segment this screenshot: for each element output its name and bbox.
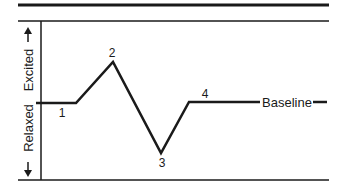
arousal-diagram: Excited Relaxed 1 2 3 4 Baseline [0, 0, 347, 193]
baseline-label: Baseline [262, 95, 312, 110]
point-label-1: 1 [59, 106, 66, 120]
arrow-up-icon [24, 27, 32, 42]
excited-label: Excited [21, 49, 36, 92]
response-curve [36, 62, 260, 153]
point-label-2: 2 [109, 46, 116, 60]
relaxed-label: Relaxed [21, 104, 36, 152]
arrow-down-icon [24, 162, 32, 177]
point-label-4: 4 [202, 87, 209, 101]
point-label-3: 3 [159, 156, 166, 170]
